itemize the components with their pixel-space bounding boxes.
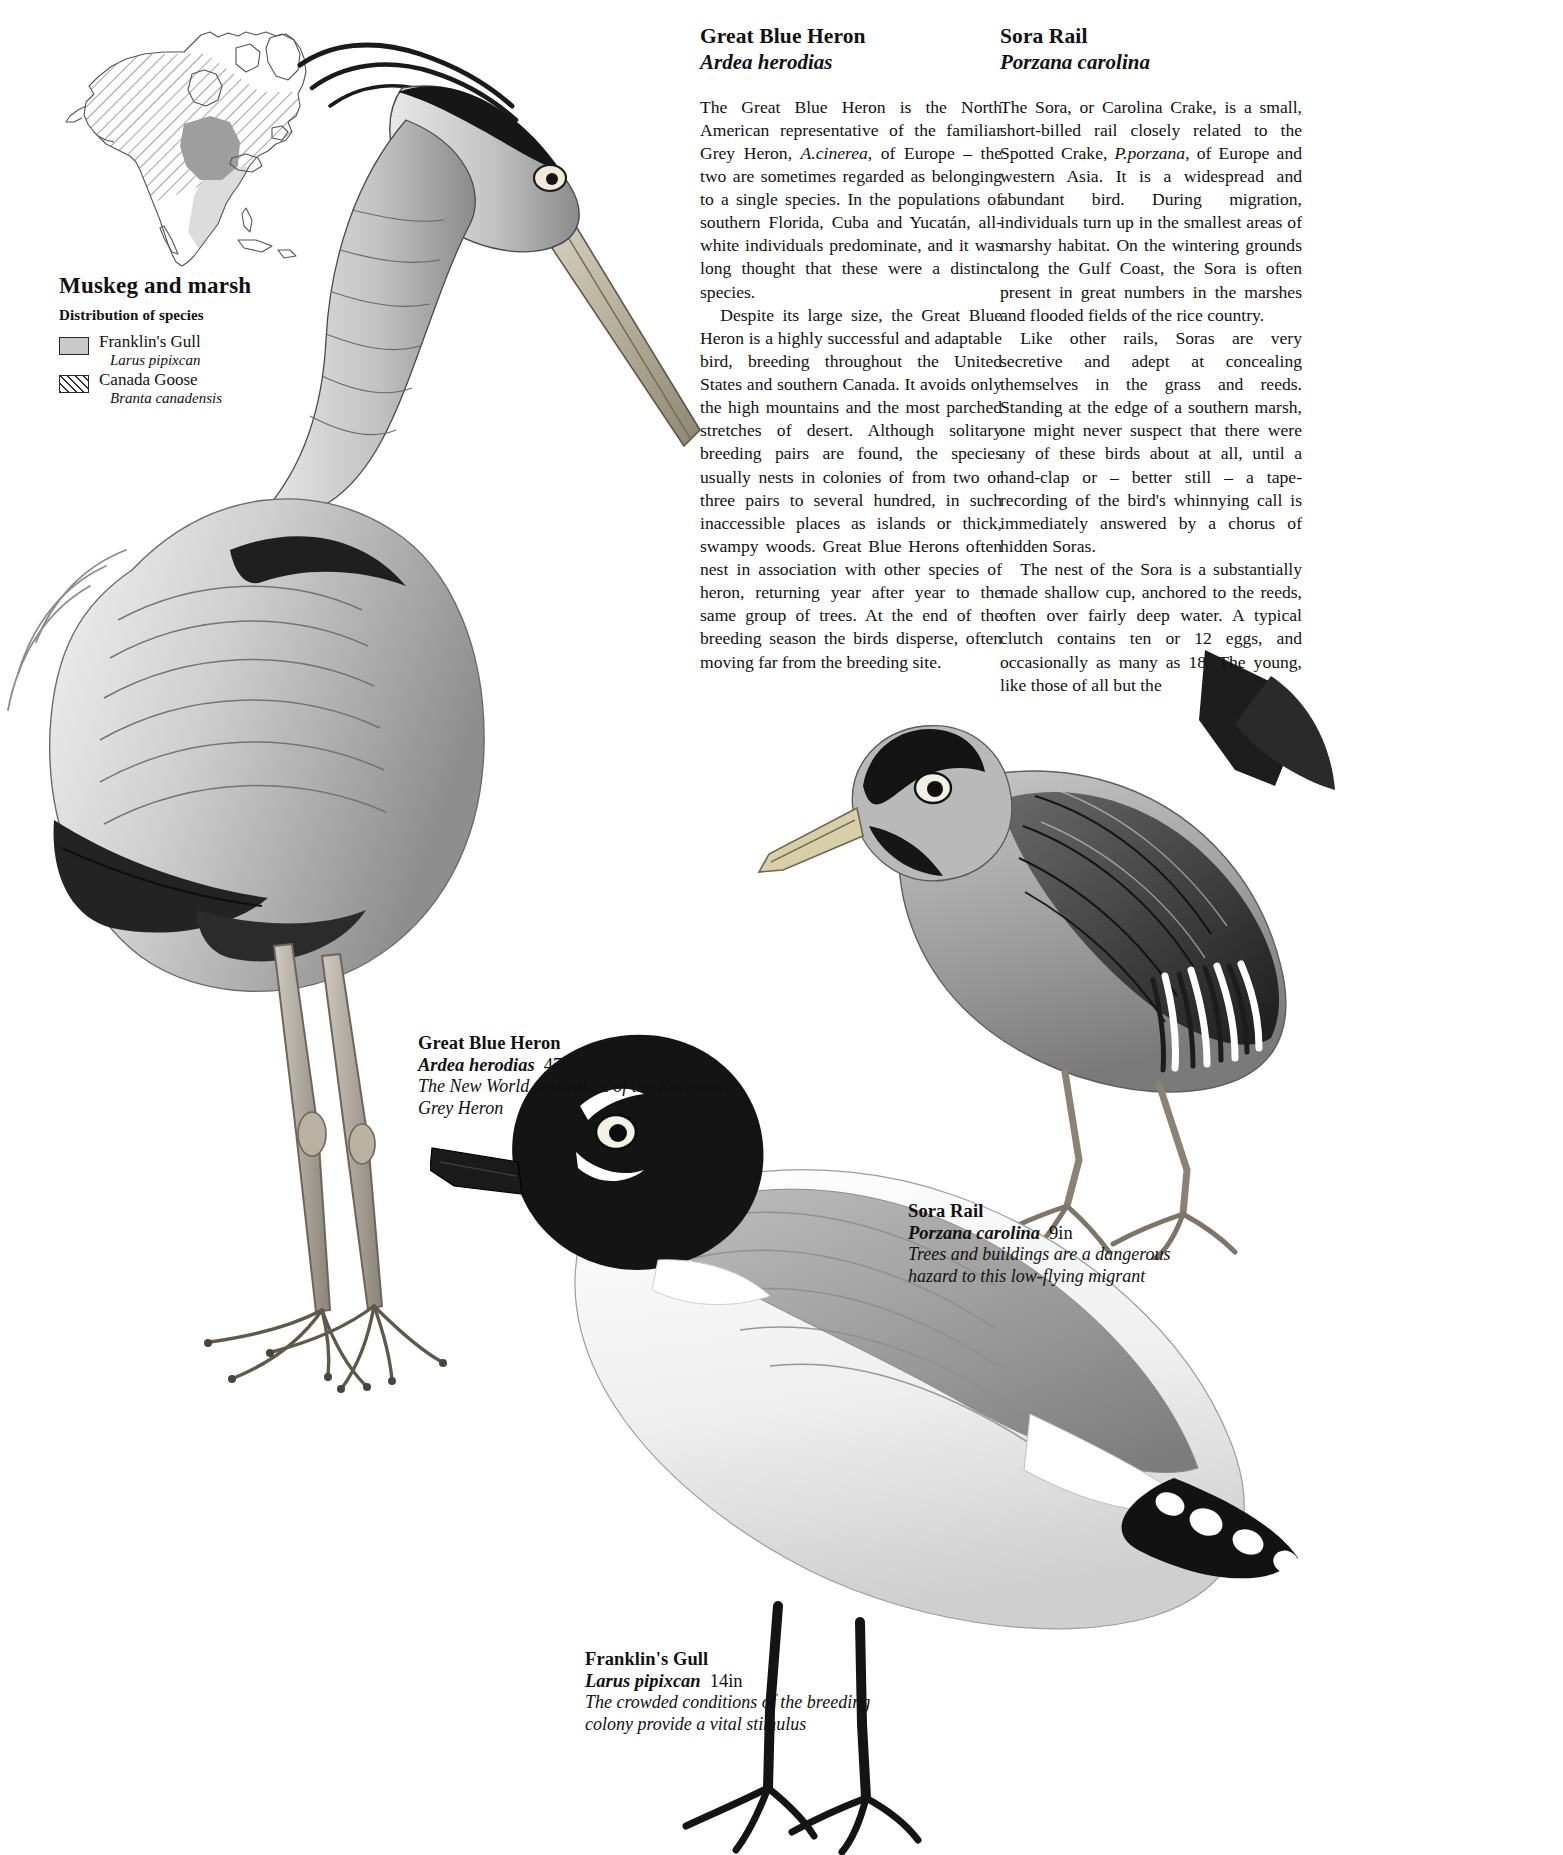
article-scientific-name: Ardea herodias bbox=[700, 50, 1002, 75]
caption-note: Trees and buildings are a dangerous haza… bbox=[908, 1244, 1208, 1288]
caption-common-name: Sora Rail bbox=[908, 1200, 1208, 1222]
heron-bill bbox=[548, 210, 700, 446]
caption-size: 14in bbox=[710, 1671, 743, 1691]
article-paragraph: Despite its large size, the Great Blue H… bbox=[700, 304, 1002, 674]
gull-bill bbox=[430, 1148, 522, 1194]
caption-common-name: Great Blue Heron bbox=[418, 1032, 738, 1054]
plate-page: Muskeg and marsh Distribution of species… bbox=[0, 0, 1563, 1855]
article-great-blue-heron: Great Blue Heron Ardea herodias The Grea… bbox=[700, 24, 1002, 674]
article-paragraph: The Great Blue Heron is the North Americ… bbox=[700, 96, 1002, 304]
caption-scientific-name: Ardea herodias bbox=[418, 1055, 535, 1075]
caption-scientific-name: Larus pipixcan bbox=[585, 1671, 701, 1691]
heron-neck bbox=[262, 120, 475, 517]
article-sora-rail: Sora Rail Porzana carolina The Sora, or … bbox=[1000, 24, 1302, 697]
sora-eye bbox=[915, 773, 951, 803]
article-paragraph: The Sora, or Carolina Crake, is a small,… bbox=[1000, 96, 1302, 327]
caption-note: The crowded conditions of the breeding c… bbox=[585, 1692, 885, 1736]
gull-feet bbox=[686, 1788, 918, 1852]
caption-great-blue-heron: Great Blue Heron Ardea herodias47in The … bbox=[418, 1032, 738, 1120]
article-title: Great Blue Heron bbox=[700, 24, 1002, 49]
caption-common-name: Franklin's Gull bbox=[585, 1648, 885, 1670]
article-scientific-name: Porzana carolina bbox=[1000, 50, 1302, 75]
caption-size: 9in bbox=[1049, 1223, 1073, 1243]
caption-franklins-gull: Franklin's Gull Larus pipixcan14in The c… bbox=[585, 1648, 885, 1736]
heron-eye bbox=[534, 165, 566, 191]
caption-sora-rail: Sora Rail Porzana carolina9in Trees and … bbox=[908, 1200, 1208, 1288]
sora-bill bbox=[759, 808, 863, 872]
caption-size: 47in bbox=[544, 1055, 577, 1075]
article-title: Sora Rail bbox=[1000, 24, 1302, 49]
article-paragraph: Like other rails, Soras are very secreti… bbox=[1000, 327, 1302, 558]
article-paragraph: The nest of the Sora is a substantially … bbox=[1000, 558, 1302, 697]
caption-note: The New World equivalent of the European… bbox=[418, 1076, 738, 1120]
caption-scientific-name: Porzana carolina bbox=[908, 1223, 1040, 1243]
heron-toe-claws bbox=[204, 1339, 447, 1393]
